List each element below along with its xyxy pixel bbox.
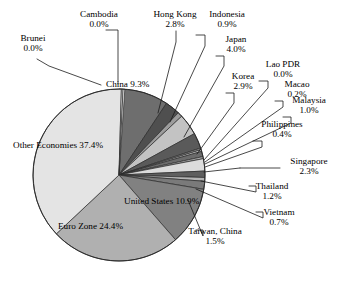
label-indonesia-name: Indonesia	[196, 9, 258, 19]
leader-line-brunei	[37, 59, 101, 85]
label-japan-name: Japan	[215, 34, 257, 44]
label-singapore-name: Singapore	[281, 156, 337, 166]
label-china: China 9.3%	[106, 79, 146, 89]
label-thailand: Thailand 1.2%	[248, 181, 296, 201]
label-united-states-name: United States	[124, 196, 173, 206]
label-vietnam-value: 0.7%	[256, 217, 302, 227]
label-cambodia-name: Cambodia	[68, 9, 130, 19]
label-japan-value: 4.0%	[215, 44, 257, 54]
label-korea-value: 2.9%	[222, 81, 264, 91]
label-lao-pdr-value: 0.0%	[258, 69, 308, 79]
label-lao-pdr: Lao PDR 0.0%	[258, 59, 308, 79]
leader-line-korea	[197, 93, 234, 154]
label-singapore-value: 2.3%	[281, 166, 337, 176]
label-malaysia: Malaysia 1.0%	[282, 95, 336, 115]
leader-line-cambodia	[106, 30, 118, 84]
label-cambodia: Cambodia 0.0%	[68, 9, 130, 29]
label-taiwan-china-name: Taiwan, China	[179, 226, 251, 236]
label-cambodia-value: 0.0%	[68, 19, 130, 29]
label-malaysia-value: 1.0%	[282, 105, 336, 115]
label-thailand-value: 1.2%	[248, 191, 296, 201]
label-singapore: Singapore 2.3%	[281, 156, 337, 176]
label-thailand-name: Thailand	[248, 181, 296, 191]
label-other-economies-value: 37.4%	[79, 140, 103, 150]
label-brunei: Brunei 0.0%	[10, 33, 56, 53]
label-vietnam: Vietnam 0.7%	[256, 207, 302, 227]
pie-chart-figure: Brunei 0.0% Cambodia 0.0% Hong Kong 2.8%…	[0, 0, 355, 294]
label-philippines: Philippines 0.4%	[252, 119, 312, 139]
label-indonesia-value: 0.9%	[196, 19, 258, 29]
label-malaysia-name: Malaysia	[282, 95, 336, 105]
label-euro-zone-value: 24.4%	[99, 221, 123, 231]
label-other-economies: Other Economies 37.4%	[13, 140, 103, 150]
label-brunei-value: 0.0%	[10, 43, 56, 53]
label-vietnam-name: Vietnam	[256, 207, 302, 217]
label-philippines-name: Philippines	[252, 119, 312, 129]
label-china-name: China	[106, 79, 128, 89]
label-macao-name: Macao	[275, 79, 319, 89]
label-united-states-value: 10.9%	[176, 196, 200, 206]
label-taiwan-china: Taiwan, China 1.5%	[179, 226, 251, 246]
leader-line-philippines	[205, 141, 262, 167]
label-euro-zone-name: Euro Zone	[58, 221, 97, 231]
label-china-value: 9.3%	[130, 79, 149, 89]
label-lao-pdr-name: Lao PDR	[258, 59, 308, 69]
label-japan: Japan 4.0%	[215, 34, 257, 54]
label-taiwan-china-value: 1.5%	[179, 236, 251, 246]
label-philippines-value: 0.4%	[252, 129, 312, 139]
label-brunei-name: Brunei	[10, 33, 56, 43]
label-euro-zone: Euro Zone 24.4%	[58, 221, 118, 231]
leader-line-singapore-2	[204, 168, 240, 172]
label-indonesia: Indonesia 0.9%	[196, 9, 258, 29]
label-united-states: United States 10.9%	[124, 196, 196, 206]
label-other-economies-name: Other Economies	[13, 140, 77, 150]
